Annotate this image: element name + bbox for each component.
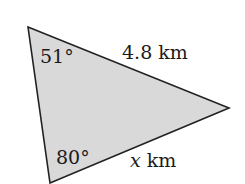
side-label-bottom-right: x km xyxy=(130,151,176,170)
triangle-shape xyxy=(0,0,245,184)
angle-bottom-value: 80° xyxy=(56,146,90,168)
side-top-right-unit: km xyxy=(158,41,188,63)
side-label-top-right: 4.8 km xyxy=(122,43,188,62)
triangle-diagram: 51° 4.8 km 80° x km xyxy=(0,0,245,184)
side-bottom-right-unit: km xyxy=(147,149,177,171)
side-top-right-value: 4.8 xyxy=(122,41,152,63)
angle-top-value: 51° xyxy=(40,45,74,67)
angle-label-top: 51° xyxy=(40,47,74,66)
side-bottom-right-variable: x xyxy=(130,149,141,171)
angle-label-bottom: 80° xyxy=(56,148,90,167)
